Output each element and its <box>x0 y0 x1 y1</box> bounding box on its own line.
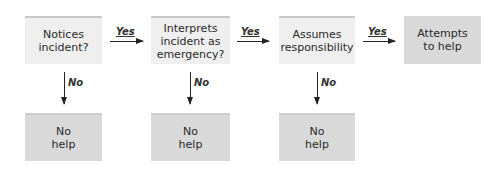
no-help-box-1: No help <box>25 113 102 161</box>
no-help-label-2: No help <box>179 125 203 151</box>
no-label-3: No <box>321 77 336 88</box>
step-notices-incident-label: Notices incident? <box>38 28 88 54</box>
step-interprets-emergency: Interprets incident as emergency? <box>151 16 230 64</box>
yes-label-3: Yes <box>368 26 387 37</box>
step-assumes-responsibility: Assumes responsibility <box>279 16 355 64</box>
no-help-box-3: No help <box>279 113 355 161</box>
step-assumes-responsibility-label: Assumes responsibility <box>280 28 353 54</box>
yes-arrow-3 <box>363 41 395 42</box>
no-arrow-1 <box>64 72 65 104</box>
no-help-label-3: No help <box>305 125 329 151</box>
no-arrow-3 <box>317 72 318 104</box>
no-label-2: No <box>194 77 209 88</box>
step-attempts-to-help: Attempts to help <box>404 16 481 64</box>
step-interprets-emergency-label: Interprets incident as emergency? <box>157 22 225 61</box>
no-label-1: No <box>68 77 83 88</box>
yes-arrow-1 <box>110 41 143 42</box>
no-help-label-1: No help <box>52 125 76 151</box>
yes-label-1: Yes <box>116 26 135 37</box>
no-help-box-2: No help <box>151 113 230 161</box>
no-arrow-2 <box>190 72 191 104</box>
step-attempts-to-help-label: Attempts to help <box>417 27 467 53</box>
yes-arrow-2 <box>237 41 269 42</box>
step-notices-incident: Notices incident? <box>25 16 102 64</box>
yes-label-2: Yes <box>241 26 260 37</box>
